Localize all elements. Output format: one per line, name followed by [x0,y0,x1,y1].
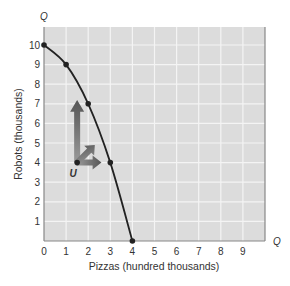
x-tick-label: 6 [174,246,180,257]
y-axis-end-label: Q [40,11,48,22]
point-u-label: U [70,168,78,179]
x-axis-label: Pizzas (hundred thousands) [89,260,220,272]
y-tick-label: 8 [34,79,40,90]
data-point [41,42,47,48]
x-tick-label: 1 [63,246,69,257]
x-tick-label: 7 [196,246,202,257]
y-tick-label: 5 [34,138,40,149]
x-tick-label: 4 [130,246,136,257]
x-tick-label: 0 [41,246,47,257]
chart: U 012345678912345678910 Pizzas (hundred … [0,0,290,286]
y-tick-label: 7 [34,98,40,109]
x-tick-label: 5 [152,246,158,257]
y-tick-label: 4 [34,157,40,168]
point-u [74,160,80,166]
y-tick-label: 9 [34,59,40,70]
y-tick-label: 1 [34,216,40,227]
y-tick-label: 10 [29,40,41,51]
y-tick-label: 6 [34,118,40,129]
data-point [85,101,91,107]
data-point [108,160,114,166]
x-axis-end-label: Q [273,236,281,247]
data-point [63,62,69,68]
x-tick-label: 3 [108,246,114,257]
y-tick-label: 3 [34,177,40,188]
x-tick-label: 2 [85,246,91,257]
y-tick-label: 2 [34,196,40,207]
x-tick-label: 8 [218,246,224,257]
data-point [130,238,136,244]
y-axis-label: Robots (thousands) [12,88,24,180]
x-tick-label: 9 [240,246,246,257]
